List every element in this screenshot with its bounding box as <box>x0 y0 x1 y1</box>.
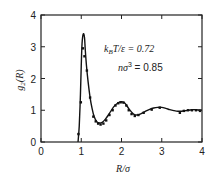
x-tick-label: 3 <box>159 146 165 157</box>
data-point <box>108 114 110 116</box>
data-point <box>99 123 101 125</box>
x-axis-label: R/σ <box>115 163 131 174</box>
data-point <box>134 115 136 117</box>
data-point <box>130 113 132 115</box>
x-tick-label: 2 <box>119 146 125 157</box>
data-point <box>142 112 144 114</box>
data-point <box>97 122 99 124</box>
y-tick-label: 0 <box>30 137 36 148</box>
data-point <box>77 133 79 135</box>
data-point <box>89 96 91 98</box>
data-point <box>92 115 94 117</box>
data-point <box>187 109 189 111</box>
y-tick-label: 4 <box>30 10 36 21</box>
data-point <box>191 109 193 111</box>
data-point <box>83 55 85 57</box>
data-point <box>122 101 124 103</box>
rdf-chart: 0123401234 g2(R) R/σ kBT/ε = 0.72 nσ3 = … <box>0 0 214 179</box>
data-point <box>114 104 116 106</box>
plot-frame <box>41 15 202 142</box>
data-point <box>80 101 82 103</box>
annotation-temperature: kBT/ε = 0.72 <box>104 43 154 56</box>
data-point <box>150 108 152 110</box>
x-tick-label: 4 <box>199 146 205 157</box>
x-tick-label: 1 <box>78 146 84 157</box>
axes: 0123401234 <box>30 10 205 157</box>
data-point <box>105 119 107 121</box>
x-tick-label: 0 <box>38 146 44 157</box>
annotation-density: nσ3 = 0.85 <box>118 61 163 73</box>
data-point <box>111 109 113 111</box>
y-tick-label: 1 <box>30 105 36 116</box>
data-point <box>137 114 139 116</box>
data-point <box>159 107 161 109</box>
data-point <box>195 109 197 111</box>
data-point <box>179 112 181 114</box>
data-point <box>102 122 104 124</box>
y-tick-label: 3 <box>30 42 36 53</box>
data-point <box>128 109 130 111</box>
y-tick-label: 2 <box>30 74 36 85</box>
data-point <box>86 69 88 71</box>
data-point <box>117 102 119 104</box>
data-point <box>95 120 97 122</box>
data-point <box>82 47 84 49</box>
data-point <box>119 101 121 103</box>
y-axis-label: g2(R) <box>14 69 27 91</box>
data-point <box>125 104 127 106</box>
data-point <box>183 110 185 112</box>
